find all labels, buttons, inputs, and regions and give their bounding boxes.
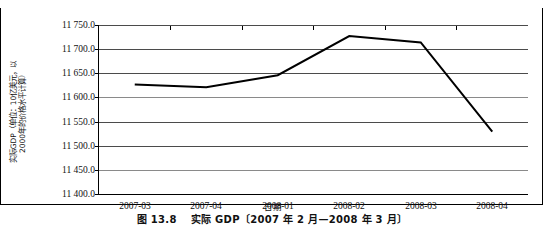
caption-number: 图 13.8 [137,214,177,225]
plot-area: 11 750.0 11 700.0 11 650.0 11 600.0 11 5… [98,25,528,195]
ytick-label-11600: 11 600.0 [37,92,95,102]
ytick-label-11650: 11 650.0 [37,68,95,78]
data-series-line [99,25,528,194]
caption-text: 实际 GDP〔2007 年 2 月—2008 年 3 月〕 [191,214,408,225]
y-axis-title-line-1: 实际GDP（单位：10亿美元，以 [9,61,19,164]
ytick-label-11500: 11 500.0 [37,141,95,151]
ytick-mark-11400 [95,194,99,195]
ytick-label-11550: 11 550.0 [37,117,95,127]
figure-container: 实际GDP（单位：10亿美元，以 2000年的价格水平计算） 11 750.0 [0,0,544,233]
figure-caption: 图 13.8实际 GDP〔2007 年 2 月—2008 年 3 月〕 [0,211,544,226]
ytick-label-11700: 11 700.0 [37,44,95,54]
y-axis-title-line-2: 2000年的价格水平计算） [18,61,28,164]
ytick-label-11450: 11 450.0 [37,165,95,175]
ytick-label-11400: 11 400.0 [37,189,95,199]
chart-frame: 实际GDP（单位：10亿美元，以 2000年的价格水平计算） 11 750.0 [0,8,543,205]
ytick-label-11750: 11 750.0 [37,20,95,30]
series-polyline [135,36,493,132]
y-axis-title: 实际GDP（单位：10亿美元，以 2000年的价格水平计算） [3,19,33,205]
